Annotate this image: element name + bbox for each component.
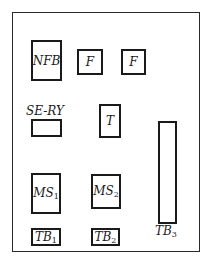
nfb-breaker: NFB — [31, 40, 62, 81]
tb2-label: TB2 — [95, 230, 117, 245]
fuse-1: F — [77, 49, 103, 75]
se-ry-label: SE-RY — [26, 104, 64, 118]
tb3-label: TB3 — [155, 224, 177, 239]
magnetic-switch-2: MS2 — [91, 174, 121, 209]
transformer: T — [99, 104, 121, 138]
terminal-block-2: TB2 — [91, 228, 120, 246]
terminal-block-1: TB1 — [31, 228, 61, 246]
ms1-label: MS1 — [33, 186, 59, 201]
ms2-label: MS2 — [93, 184, 119, 199]
tb1-label: TB1 — [35, 230, 57, 245]
fuse-1-label: F — [86, 55, 94, 69]
magnetic-switch-1: MS1 — [31, 173, 61, 214]
transformer-label: T — [106, 114, 114, 128]
se-ry-relay — [31, 119, 62, 137]
nfb-label: NFB — [33, 54, 61, 68]
fuse-2-label: F — [129, 55, 137, 69]
fuse-2: F — [121, 49, 146, 75]
terminal-block-3 — [158, 121, 177, 224]
